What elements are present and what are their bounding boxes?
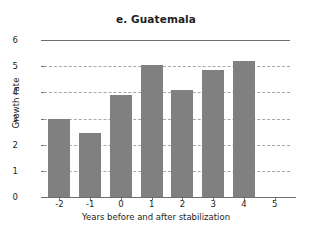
bar (202, 70, 224, 197)
x-axis-line (44, 197, 296, 198)
bar (110, 95, 132, 197)
bar (48, 119, 70, 198)
y-tick-label: 0 (0, 193, 18, 202)
x-tick-label: 0 (109, 200, 133, 209)
bar-series (44, 40, 290, 197)
y-tick-label: 5 (0, 62, 18, 71)
y-tick-label: 2 (0, 141, 18, 150)
y-tick-label: 1 (0, 167, 18, 176)
bar (233, 61, 255, 197)
x-tick-label: 3 (201, 200, 225, 209)
chart-title: e. Guatemala (0, 13, 312, 25)
y-tick-label: 3 (0, 115, 18, 124)
plot-area (44, 40, 290, 197)
x-tick-label: 1 (140, 200, 164, 209)
y-tick-label: 4 (0, 88, 18, 97)
bar (141, 65, 163, 197)
bar (79, 133, 101, 197)
bar (171, 90, 193, 197)
x-tick-label: 2 (170, 200, 194, 209)
chart-figure: e. Guatemala Growth rate Years before an… (0, 0, 312, 233)
y-axis-title: Growth rate (11, 63, 21, 143)
x-tick-label: -1 (78, 200, 102, 209)
y-tick-label: 6 (0, 36, 18, 45)
x-tick-label: 4 (232, 200, 256, 209)
x-axis-title: Years before and after stabilization (0, 212, 312, 222)
x-tick-label: 5 (263, 200, 287, 209)
x-tick-label: -2 (47, 200, 71, 209)
